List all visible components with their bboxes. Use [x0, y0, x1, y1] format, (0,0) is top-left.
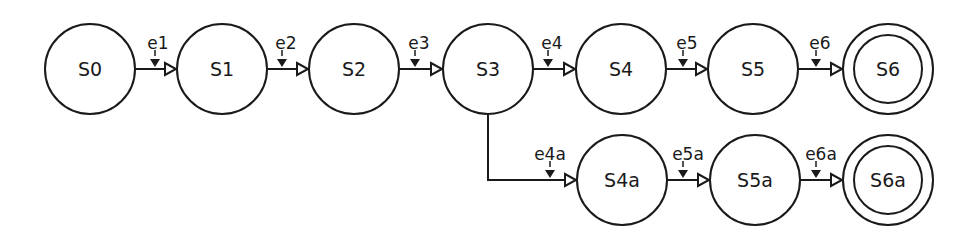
open-arrowhead-icon — [165, 63, 176, 75]
transition-label: e4 — [541, 33, 562, 53]
transition-e6: e6 — [798, 33, 842, 75]
transition-e5a: e5a — [667, 144, 709, 186]
state-s4: S4 — [576, 24, 666, 114]
event-marker-icon — [150, 59, 160, 67]
open-arrowhead-icon — [297, 63, 308, 75]
transition-label: e3 — [408, 33, 429, 53]
state-s2: S2 — [309, 24, 399, 114]
event-marker-icon — [678, 59, 688, 67]
transition-label: e6a — [805, 144, 837, 164]
state-label: S4a — [604, 169, 640, 191]
event-marker-icon — [543, 59, 553, 67]
open-arrowhead-icon — [431, 63, 442, 75]
open-arrowhead-icon — [564, 63, 575, 75]
event-marker-icon — [545, 170, 555, 178]
open-arrowhead-icon — [831, 63, 842, 75]
transition-e6a: e6a — [800, 144, 842, 186]
state-label: S2 — [342, 58, 366, 80]
transition-label: e1 — [147, 33, 168, 53]
state-s6-final: S6 — [843, 24, 933, 114]
state-s3: S3 — [443, 24, 533, 114]
transition-e1: e1 — [135, 33, 176, 75]
state-label: S1 — [210, 58, 234, 80]
state-label: S3 — [476, 58, 500, 80]
transition-label: e5 — [676, 33, 697, 53]
state-s1: S1 — [177, 24, 267, 114]
state-label: S0 — [78, 58, 102, 80]
transition-label: e5a — [672, 144, 704, 164]
state-s5: S5 — [708, 24, 798, 114]
transition-e5: e5 — [666, 33, 707, 75]
state-s5a: S5a — [710, 135, 800, 225]
transition-label: e4a — [534, 144, 566, 164]
event-marker-icon — [811, 59, 821, 67]
state-label: S6a — [870, 169, 906, 191]
state-s6a-final: S6a — [843, 135, 933, 225]
state-s4a: S4a — [577, 135, 667, 225]
state-diagram: e1 e2 e3 e4 e5 e6 — [0, 0, 975, 237]
state-s0: S0 — [45, 24, 135, 114]
open-arrowhead-icon — [696, 63, 707, 75]
event-marker-icon — [811, 170, 821, 178]
state-label: S5 — [741, 58, 765, 80]
state-label: S6 — [876, 58, 900, 80]
open-arrowhead-icon — [831, 174, 842, 186]
transition-e4: e4 — [533, 33, 575, 75]
state-label: S5a — [737, 169, 773, 191]
event-marker-icon — [678, 170, 688, 178]
transition-e3: e3 — [399, 33, 442, 75]
event-marker-icon — [277, 59, 287, 67]
transition-label: e6 — [809, 33, 830, 53]
open-arrowhead-icon — [565, 174, 576, 186]
event-marker-icon — [410, 59, 420, 67]
state-label: S4 — [609, 58, 633, 80]
transition-label: e2 — [275, 33, 296, 53]
transition-e2: e2 — [267, 33, 308, 75]
transition-e4a: e4a — [488, 114, 576, 186]
open-arrowhead-icon — [698, 174, 709, 186]
